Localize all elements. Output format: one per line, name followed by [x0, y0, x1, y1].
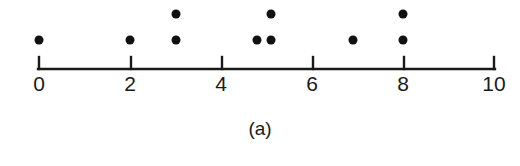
- data-point-dot: [399, 10, 408, 19]
- data-point-dot: [348, 36, 357, 45]
- tick-marks-group: [131, 57, 404, 69]
- data-point-dot: [267, 10, 276, 19]
- x-axis-tick-label: 0: [33, 73, 45, 94]
- data-point-dot: [253, 36, 262, 45]
- dot-plot-figure: 0246810 (a): [0, 0, 520, 166]
- plot-area: 0246810: [0, 0, 520, 110]
- data-point-dot: [171, 36, 180, 45]
- data-point-dot: [171, 10, 180, 19]
- x-axis-tick-label: 6: [306, 73, 318, 94]
- data-point-dot: [399, 36, 408, 45]
- data-point-dot: [267, 36, 276, 45]
- x-axis-tick-label: 10: [482, 73, 505, 94]
- axis-svg: [0, 0, 520, 110]
- axis-line-group: [38, 57, 495, 69]
- x-axis-tick-label: 8: [397, 73, 409, 94]
- data-point-dot: [126, 36, 135, 45]
- data-point-dot: [35, 36, 44, 45]
- x-axis-tick-label: 2: [124, 73, 136, 94]
- figure-caption: (a): [0, 118, 520, 140]
- x-axis-tick-label: 4: [215, 73, 227, 94]
